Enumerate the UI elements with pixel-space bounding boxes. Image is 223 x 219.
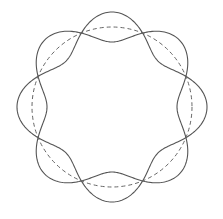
reference-circle-dashed (32, 27, 192, 187)
standing-wave-diagram (0, 0, 223, 219)
wave-curve-plus (17, 12, 207, 202)
wave-curve-minus (36, 31, 188, 183)
